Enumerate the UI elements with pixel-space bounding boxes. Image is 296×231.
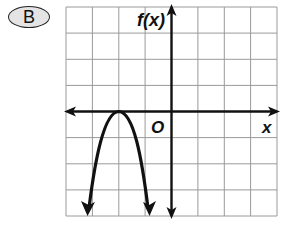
x-axis-label: x [261, 118, 273, 137]
y-axis-label: f(x) [137, 10, 165, 30]
origin-label: O [151, 118, 164, 137]
graph: f(x) O x [0, 0, 296, 231]
